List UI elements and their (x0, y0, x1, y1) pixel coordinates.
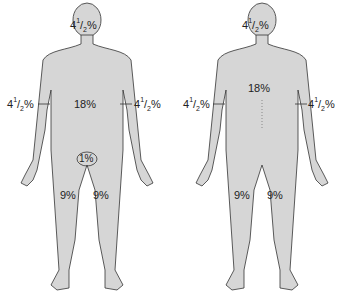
suffix: % (259, 19, 269, 31)
back-figure (196, 3, 328, 290)
front-figure (21, 3, 153, 290)
back-right-arm-label: 41/2% (308, 98, 335, 110)
suffix: % (325, 98, 335, 110)
num: 1 (140, 96, 144, 103)
front-trunk-label: 18% (74, 98, 96, 110)
num: 1 (189, 96, 193, 103)
back-head-label: 41/2% (242, 19, 269, 31)
back-right-leg-label: 9% (267, 189, 283, 201)
front-perineum-label: 1% (79, 153, 93, 165)
back-trunk-label: 18% (248, 82, 270, 94)
back-left-arm-label: 41/2% (183, 98, 210, 110)
body-figures (0, 0, 347, 301)
suffix: % (151, 98, 161, 110)
front-right-arm-label: 41/2% (134, 98, 161, 110)
suffix: % (24, 98, 34, 110)
suffix: % (87, 19, 97, 31)
front-right-leg-label: 9% (93, 189, 109, 201)
num: 1 (314, 96, 318, 103)
front-head-label: 41/2% (70, 19, 97, 31)
num: 1 (76, 17, 80, 24)
back-left-leg-label: 9% (234, 189, 250, 201)
front-left-arm-label: 41/2% (7, 98, 34, 110)
front-left-leg-label: 9% (60, 189, 76, 201)
num: 1 (13, 96, 17, 103)
num: 1 (248, 17, 252, 24)
suffix: % (200, 98, 210, 110)
